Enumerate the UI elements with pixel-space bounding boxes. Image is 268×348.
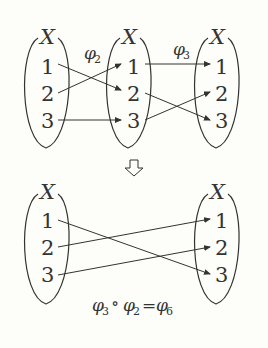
element-3: 3 bbox=[41, 109, 54, 133]
svg-text:3: 3 bbox=[102, 305, 109, 318]
element-2: 2 bbox=[127, 82, 140, 106]
element-1: 1 bbox=[215, 55, 228, 79]
top-set-3: X 1 2 3 bbox=[195, 25, 239, 148]
element-3: 3 bbox=[41, 263, 54, 287]
map-phi3-label: φ 3 bbox=[173, 39, 190, 62]
phi6-arrows bbox=[58, 219, 210, 275]
map-phi2-label: φ 2 bbox=[84, 43, 101, 66]
set-label: X bbox=[208, 180, 226, 204]
element-1: 1 bbox=[127, 55, 140, 79]
svg-text:2: 2 bbox=[133, 305, 140, 318]
svg-text:3: 3 bbox=[183, 49, 190, 62]
set-label: X bbox=[208, 25, 226, 49]
element-1: 1 bbox=[41, 209, 54, 233]
element-3: 3 bbox=[127, 109, 140, 133]
bottom-set-1: X 1 2 3 bbox=[25, 180, 69, 304]
phi3-arrows bbox=[145, 64, 210, 120]
element-2: 2 bbox=[215, 236, 228, 260]
phi2-arrows bbox=[58, 64, 121, 120]
svg-text:2: 2 bbox=[94, 53, 101, 66]
top-set-1: X 1 2 3 bbox=[25, 25, 69, 148]
set-label: X bbox=[38, 180, 56, 204]
svg-text:∘: ∘ bbox=[111, 293, 119, 313]
set-label: X bbox=[38, 25, 56, 49]
element-1: 1 bbox=[215, 209, 228, 233]
down-arrow-icon bbox=[125, 160, 143, 176]
element-2: 2 bbox=[215, 82, 228, 106]
element-1: 1 bbox=[41, 55, 54, 79]
element-2: 2 bbox=[41, 82, 54, 106]
element-3: 3 bbox=[215, 263, 228, 287]
svg-text:6: 6 bbox=[166, 305, 173, 318]
composition-equation: φ 3 ∘ φ 2 = φ 6 bbox=[92, 293, 173, 318]
element-3: 3 bbox=[215, 109, 228, 133]
svg-text:=: = bbox=[142, 295, 156, 315]
composition-diagram: X 1 2 3 X 1 2 3 X 1 2 3 φ 2 φ 3 bbox=[0, 0, 268, 348]
set-label: X bbox=[120, 25, 138, 49]
bottom-set-2: X 1 2 3 bbox=[195, 180, 239, 304]
element-2: 2 bbox=[41, 236, 54, 260]
